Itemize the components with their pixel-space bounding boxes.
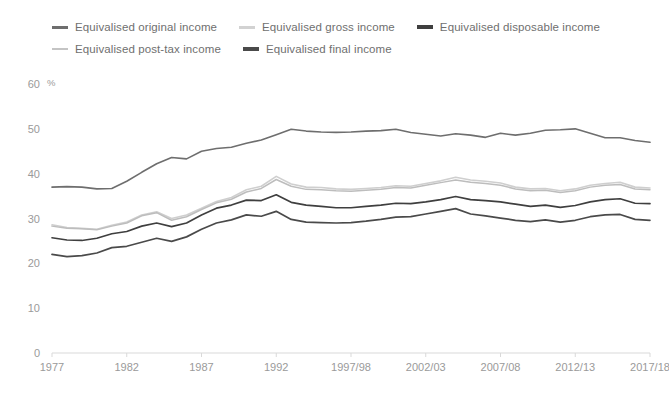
- x-axis-tick-label: 1977: [40, 361, 64, 373]
- x-axis-tick-label: 2002/03: [406, 361, 446, 373]
- y-axis-tick-label: 30: [28, 213, 40, 225]
- y-axis-tick-label: 60: [28, 78, 40, 90]
- x-axis: 19771982198719921997/982002/032007/08201…: [40, 353, 669, 373]
- series-lines: [52, 129, 650, 257]
- y-axis-tick-label: 0: [34, 347, 40, 359]
- y-axis-tick-label: 50: [28, 123, 40, 135]
- chart-svg: 6050403020100 19771982198719921997/98200…: [0, 0, 669, 396]
- y-axis-tick-label: 20: [28, 257, 40, 269]
- x-axis-tick-label: 1982: [115, 361, 139, 373]
- x-axis-tick-label: 2007/08: [481, 361, 521, 373]
- x-axis-tick-label: 2017/18: [630, 361, 669, 373]
- x-axis-tick-label: 1987: [189, 361, 213, 373]
- y-axis-tick-label: 40: [28, 168, 40, 180]
- y-axis-unit-label: %: [47, 77, 56, 88]
- series-line-equivalised-original-income: [52, 129, 650, 189]
- x-axis-tick-label: 1992: [264, 361, 288, 373]
- series-line-equivalised-disposable-income: [52, 195, 650, 241]
- x-axis-tick-label: 1997/98: [331, 361, 371, 373]
- y-axis-tick-label: 10: [28, 302, 40, 314]
- income-inequality-line-chart: Equivalised original income Equivalised …: [0, 0, 669, 396]
- y-axis: 6050403020100: [28, 78, 40, 359]
- plot-area: 6050403020100 19771982198719921997/98200…: [0, 0, 669, 396]
- x-axis-tick-label: 2012/13: [555, 361, 595, 373]
